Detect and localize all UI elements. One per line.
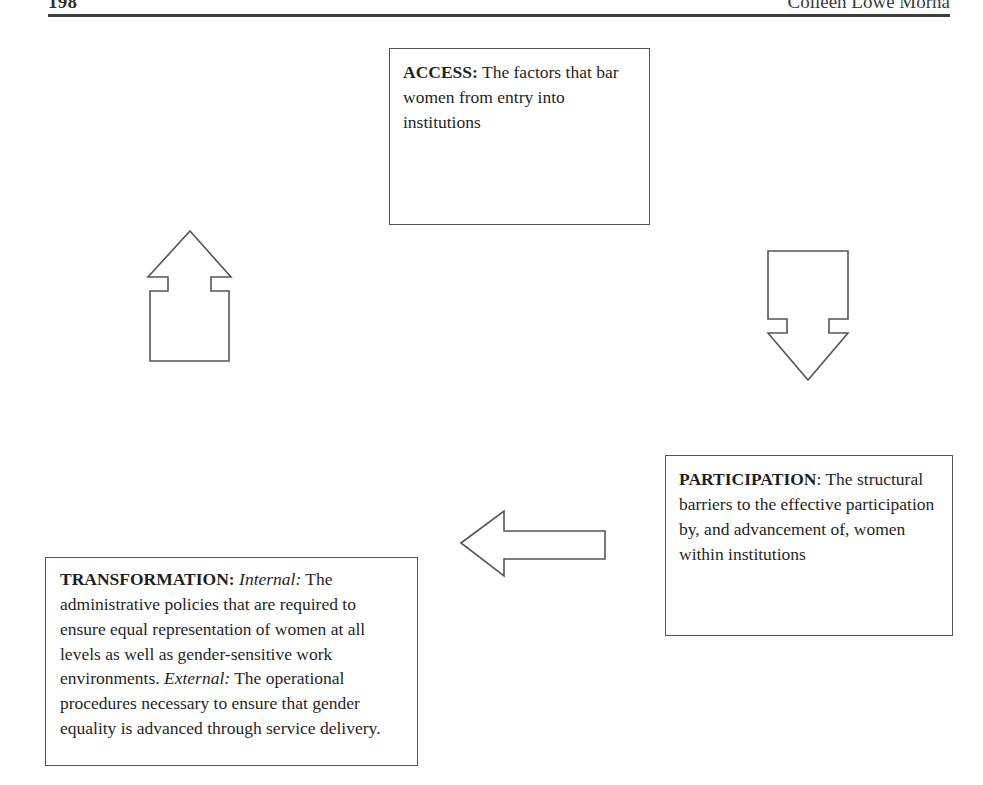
arrow-down-icon [765, 249, 851, 383]
transformation-label: TRANSFORMATION: [60, 569, 235, 589]
participation-text: PARTICIPATION: The structural barriers t… [666, 456, 952, 566]
access-label: ACCESS: [403, 62, 478, 82]
diagram-box-transformation: TRANSFORMATION: Internal: The administra… [45, 557, 418, 766]
running-head-author: Colleen Lowe Morna [787, 0, 950, 13]
page-number: 198 [48, 0, 77, 13]
transformation-external-label: External: [160, 668, 230, 688]
access-text: ACCESS: The factors that bar women from … [390, 49, 649, 135]
transformation-text: TRANSFORMATION: Internal: The administra… [46, 558, 417, 741]
participation-label: PARTICIPATION [679, 469, 816, 489]
diagram-box-participation: PARTICIPATION: The structural barriers t… [665, 455, 953, 636]
document-page: 198 Colleen Lowe Morna ACCESS: The facto… [0, 0, 983, 785]
diagram-box-access: ACCESS: The factors that bar women from … [389, 48, 650, 225]
transformation-internal-label: Internal: [235, 569, 302, 589]
arrow-left-icon [459, 509, 607, 578]
arrow-up-icon [145, 229, 235, 364]
header-rule [48, 14, 950, 17]
